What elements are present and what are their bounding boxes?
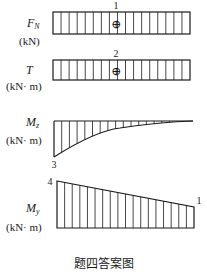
my-value-right: 1: [197, 195, 202, 206]
moment-y-diagram: 4 1 My (kN· m): [6, 176, 202, 234]
mz-unit: (kN· m): [6, 134, 42, 147]
fn-symbol: FN: [26, 16, 40, 31]
mz-symbol: Mz: [25, 115, 40, 130]
fn-unit: (kN): [19, 35, 40, 48]
internal-force-diagrams: 1 ⊕ FN (kN) 2 ⊕ T (kN· m) 3 Mz (kN· m) 4…: [0, 0, 207, 274]
t-positive-sign-icon: ⊕: [111, 64, 121, 78]
torque-diagram: 2 ⊕ T (kN· m): [6, 48, 190, 93]
mz-value-label: 3: [52, 159, 57, 170]
t-symbol: T: [26, 63, 34, 77]
my-unit: (kN· m): [6, 221, 42, 234]
moment-z-diagram: 3 Mz (kN· m): [6, 115, 193, 170]
fn-positive-sign-icon: ⊕: [111, 17, 121, 31]
my-symbol: My: [25, 201, 40, 216]
my-value-left: 4: [48, 176, 53, 187]
fn-value-label: 1: [114, 0, 119, 11]
axial-force-diagram: 1 ⊕ FN (kN): [19, 0, 190, 48]
t-value-label: 2: [114, 48, 119, 59]
figure-caption: 题四答案图: [0, 254, 207, 271]
t-unit: (kN· m): [6, 80, 42, 93]
